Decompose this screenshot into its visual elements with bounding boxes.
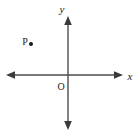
y-axis-top-arrowhead <box>64 16 72 25</box>
point-p: P <box>22 36 33 47</box>
coordinate-plane-svg: y x O P <box>0 0 137 135</box>
x-axis-label: x <box>127 70 133 82</box>
y-axis-label: y <box>59 3 65 15</box>
y-axis-bottom-arrowhead <box>64 121 72 130</box>
y-axis <box>64 16 72 130</box>
point-p-dot <box>29 42 33 46</box>
coordinate-plane-diagram: y x O P <box>0 0 137 135</box>
x-axis <box>6 71 123 79</box>
x-axis-right-arrowhead <box>114 71 123 79</box>
point-p-label: P <box>22 36 28 47</box>
origin-label: O <box>57 81 64 92</box>
x-axis-left-arrowhead <box>6 71 15 79</box>
